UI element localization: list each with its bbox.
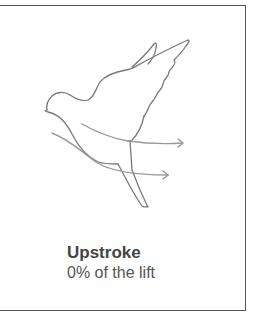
bird-upstroke-illustration [0, 0, 255, 230]
lower-airflow-arrow [52, 133, 168, 175]
phase-title: Upstroke [67, 243, 155, 263]
caption: Upstroke 0% of the lift [67, 243, 155, 283]
lift-percentage: 0% of the lift [67, 263, 155, 283]
bird-icon [45, 40, 189, 207]
